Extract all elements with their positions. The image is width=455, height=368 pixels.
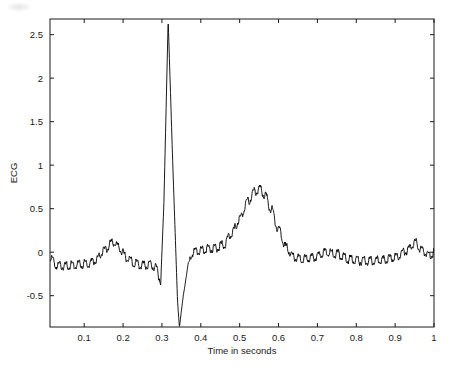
- x-tick-label: 0.3: [155, 332, 168, 343]
- x-tick-label: 0.4: [194, 332, 207, 343]
- ecg-figure: 0.10.20.30.40.50.60.70.80.91 -0.500.511.…: [0, 0, 455, 368]
- ecg-waveform: [50, 24, 434, 326]
- x-tick-label: 0.1: [78, 332, 91, 343]
- y-axis-tick-labels: -0.500.511.522.5: [27, 29, 43, 301]
- y-tick-label: 1.5: [30, 116, 43, 127]
- x-tick-label: 0.2: [116, 332, 129, 343]
- x-tick-label: 0.9: [389, 332, 402, 343]
- ecg-plot: 0.10.20.30.40.50.60.70.80.91 -0.500.511.…: [0, 0, 455, 368]
- x-tick-label: 0.8: [350, 332, 363, 343]
- y-tick-label: 2: [38, 73, 43, 84]
- x-tick-label: 0.5: [233, 332, 246, 343]
- y-tick-label: -0.5: [27, 290, 43, 301]
- x-axis-ticks: [84, 19, 434, 327]
- x-axis-tick-labels: 0.10.20.30.40.50.60.70.80.91: [78, 332, 437, 343]
- y-tick-label: 0: [38, 247, 43, 258]
- x-tick-label: 0.7: [311, 332, 324, 343]
- plot-frame: [50, 19, 434, 327]
- y-axis-ticks: [50, 35, 434, 296]
- y-tick-label: 0.5: [30, 203, 43, 214]
- x-axis-title: Time in seconds: [208, 345, 277, 356]
- y-tick-label: 2.5: [30, 29, 43, 40]
- y-tick-label: 1: [38, 160, 43, 171]
- y-axis-title: ECG: [8, 163, 19, 184]
- x-tick-label: 1: [431, 332, 436, 343]
- x-tick-label: 0.6: [272, 332, 285, 343]
